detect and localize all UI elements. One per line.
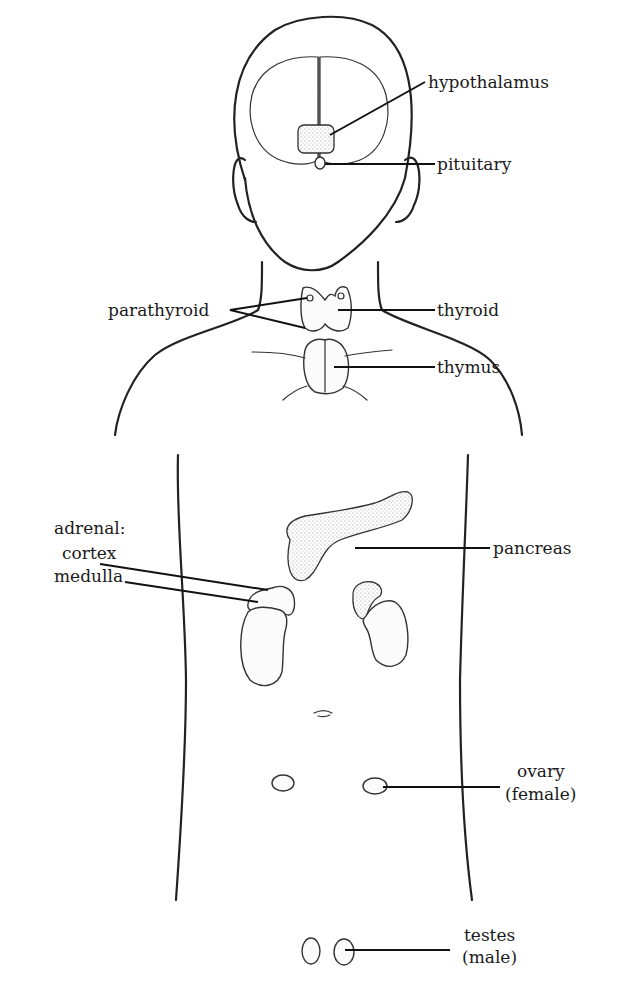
hypothalamus-gland — [298, 125, 334, 153]
label-cortex: cortex — [62, 543, 117, 563]
label-ovary: ovary — [517, 761, 565, 781]
label-hypothalamus: hypothalamus — [428, 72, 549, 92]
label-testes-note: (male) — [462, 947, 517, 967]
navel — [314, 711, 332, 717]
label-medulla: medulla — [54, 566, 123, 586]
testis-right — [334, 939, 354, 965]
label-testes: testes — [464, 925, 515, 945]
label-parathyroid: parathyroid — [108, 300, 209, 320]
kidney-right — [363, 601, 407, 666]
endocrine-diagram: hypothalamus pituitary parathyroid thyro… — [0, 0, 617, 995]
pituitary-gland — [315, 157, 325, 169]
thyroid-gland — [301, 287, 351, 331]
label-adrenal: adrenal: — [54, 518, 125, 538]
label-ovary-note: (female) — [505, 784, 576, 804]
label-thyroid: thyroid — [437, 300, 499, 320]
testis-left — [302, 938, 320, 964]
kidney-left — [241, 607, 287, 685]
pancreas-gland — [287, 492, 412, 581]
label-thymus: thymus — [437, 357, 500, 377]
label-pancreas: pancreas — [493, 538, 572, 558]
label-pituitary: pituitary — [437, 154, 512, 174]
ovary-left — [272, 775, 294, 791]
